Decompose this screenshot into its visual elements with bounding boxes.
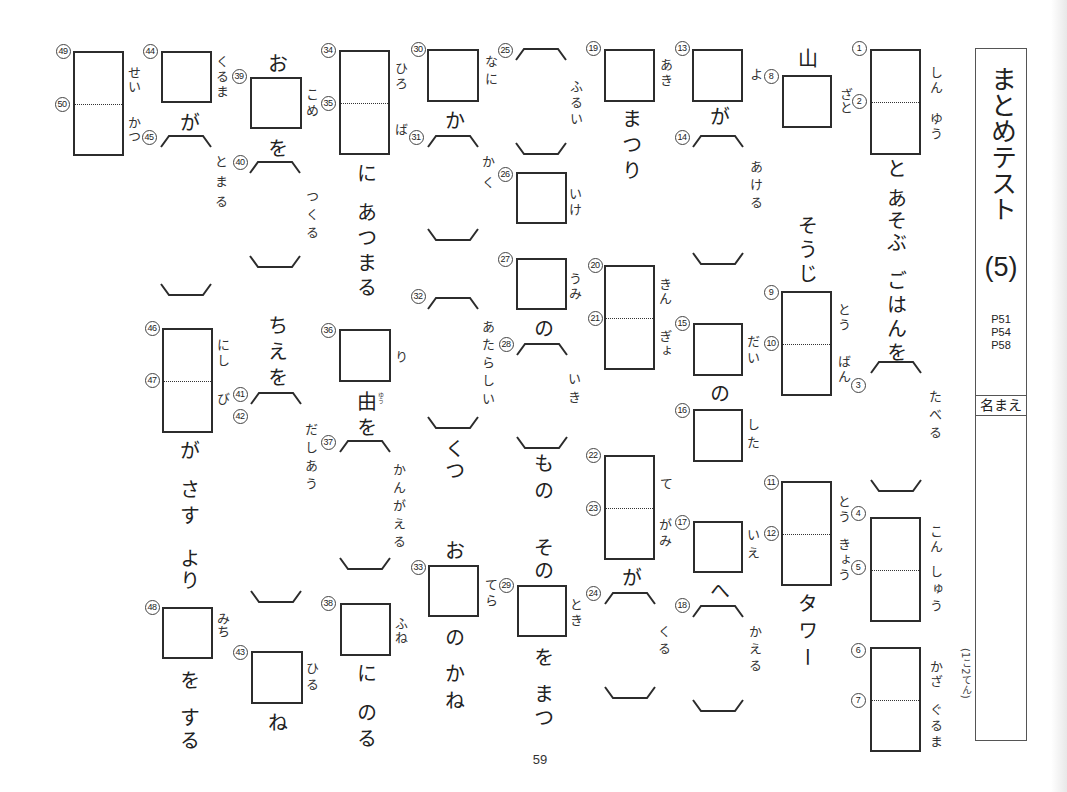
reading: こん	[928, 525, 942, 555]
question-number: 9	[764, 285, 779, 300]
question-number: 3	[851, 378, 866, 393]
question-number: 6	[851, 643, 866, 658]
sentence-text: くつ	[442, 438, 464, 482]
bracket-top	[870, 361, 922, 374]
bracket-top	[427, 135, 479, 148]
reading: つくる	[304, 190, 318, 244]
sentence-text: あつまる	[354, 202, 376, 302]
box-divider	[606, 508, 653, 509]
bracket-top	[339, 440, 391, 453]
sentence-text: する	[177, 707, 199, 753]
answer-box-split	[870, 647, 921, 752]
answer-box-split	[604, 455, 655, 560]
question-number: 14	[675, 130, 690, 145]
reading: とう	[836, 303, 850, 333]
reading: くるま	[214, 55, 228, 100]
box-divider	[872, 570, 919, 571]
answer-bracket	[604, 592, 656, 699]
reading: いき	[566, 372, 580, 410]
answer-box	[340, 603, 391, 656]
reading: ば	[393, 123, 407, 138]
question-number: 11	[764, 475, 779, 490]
reading: いけ	[567, 187, 581, 219]
sentence-text: のる	[354, 702, 376, 754]
sentence-text: タワー	[795, 593, 817, 674]
answer-box-split	[870, 49, 921, 155]
bracket-top	[160, 135, 212, 148]
reading: とまる	[213, 155, 227, 215]
question-number: 33	[411, 560, 426, 575]
page-number: 59	[533, 752, 547, 767]
reading: あける	[748, 160, 762, 214]
answer-box	[604, 49, 655, 102]
bracket-bottom	[692, 252, 744, 265]
answer-box	[782, 75, 832, 128]
test-number: (5)	[976, 252, 1026, 282]
bracket-top	[604, 592, 656, 605]
title-panel: まとめテスト (5) P51 P54 P58 名まえ	[975, 48, 1027, 741]
bracket-bottom	[250, 590, 302, 603]
answer-box	[693, 521, 743, 573]
reading: くる	[656, 625, 670, 659]
bracket-bottom	[249, 255, 301, 268]
name-label: 名まえ	[976, 395, 1026, 416]
page-ref: P51	[976, 313, 1026, 326]
question-number: 44	[143, 44, 158, 59]
page-edge-shadow	[1051, 0, 1067, 792]
answer-box	[517, 585, 567, 637]
reading: り	[393, 350, 407, 365]
bracket-bottom	[427, 416, 479, 429]
reading: にし	[215, 338, 229, 370]
answer-box	[692, 49, 743, 102]
question-number: 4	[851, 506, 866, 521]
answer-bracket	[516, 343, 568, 449]
answer-box-split	[339, 50, 390, 155]
sentence-text: その	[531, 537, 553, 583]
sentence-text: あそぶ	[884, 188, 906, 254]
answer-box	[251, 651, 303, 704]
answer-box	[162, 607, 213, 659]
answer-box	[693, 409, 743, 462]
reading: だい	[745, 335, 759, 367]
sentence-text: もの	[531, 453, 553, 507]
question-number: 47	[145, 373, 160, 388]
sentence-text: に	[354, 163, 376, 187]
reading: ひる	[304, 662, 318, 694]
question-number: 35	[321, 96, 336, 111]
bracket-top	[250, 392, 302, 405]
reading: よ	[748, 68, 762, 83]
sentence-text: を	[177, 670, 199, 694]
question-number: 20	[588, 258, 603, 273]
question-number: 31	[409, 130, 424, 145]
sentence-text: が	[177, 440, 199, 464]
reading: しゅう	[928, 565, 942, 616]
reading: かんがえる	[391, 463, 405, 553]
question-number: 19	[586, 41, 601, 56]
question-number: 41	[233, 387, 248, 402]
sentence-text: さす	[177, 479, 199, 531]
sentence-text: が	[619, 567, 641, 591]
answer-box	[428, 565, 479, 617]
sentence-text: を	[531, 647, 553, 671]
reading: かく	[480, 155, 494, 197]
bracket-bottom	[516, 436, 568, 449]
sentence-text: が	[707, 106, 729, 130]
reading: なに	[483, 55, 497, 89]
bracket-top	[692, 605, 744, 618]
reading: ふね	[393, 617, 407, 645]
bracket-bottom	[339, 557, 391, 570]
reading: うみ	[567, 272, 581, 302]
question-number: 36	[321, 323, 336, 338]
reading: ひろ	[393, 62, 407, 92]
reading: ゆう	[928, 112, 942, 142]
sentence-text: の	[531, 318, 553, 342]
points-note: (1こ2てん)	[959, 648, 971, 699]
question-number: 34	[321, 43, 336, 58]
reading: こめ	[304, 88, 318, 120]
question-number: 45	[142, 130, 157, 145]
reading: ぎょ	[657, 330, 671, 358]
bracket-top	[692, 135, 744, 148]
answer-box	[250, 77, 302, 129]
question-number: 21	[588, 311, 603, 326]
kanji-text: 由	[354, 391, 376, 415]
